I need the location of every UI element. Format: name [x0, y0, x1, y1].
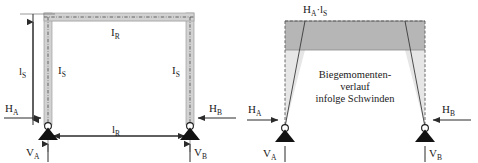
support-a-triangle	[38, 128, 58, 141]
column-height-label: lS	[19, 65, 26, 80]
support-b	[180, 123, 200, 140]
moment-band-beam	[285, 21, 425, 50]
moment-caption-line2: verlauf	[340, 81, 370, 92]
support-b-triangle	[180, 128, 200, 141]
reaction-ha-label: HA	[248, 103, 262, 118]
reaction-va-label: VA	[263, 147, 277, 162]
beam-member-label: IR	[111, 26, 120, 41]
support-a	[275, 125, 295, 142]
reaction-vb-label: VB	[194, 146, 207, 161]
reaction-vb-label: VB	[429, 147, 442, 162]
support-b	[415, 125, 435, 142]
moment-value-label: HA·lS	[303, 3, 327, 18]
reaction-hb-label: HB	[442, 103, 455, 118]
support-a	[38, 123, 58, 140]
reaction-ha-label: HA	[5, 102, 19, 117]
right-moment-diagram-panel: HA·lS Biegemomenten- verlauf infolge Sch…	[239, 0, 478, 163]
reaction-hb-label: HB	[209, 102, 222, 117]
moment-wedge-left	[285, 50, 305, 127]
left-portal-frame-panel: IS IS IR lS lR	[0, 0, 239, 163]
left-column-member-label: IS	[58, 64, 66, 79]
engineering-figure: IS IS IR lS lR	[0, 0, 478, 163]
moment-caption-line1: Biegemomenten-	[319, 69, 392, 80]
reaction-va-label: VA	[26, 146, 40, 161]
span-label: lR	[112, 123, 120, 138]
moment-wedge-right	[405, 50, 425, 127]
support-a-triangle	[275, 130, 295, 143]
support-b-triangle	[415, 130, 435, 143]
right-column-member-label: IS	[172, 64, 180, 79]
moment-caption-line3: infolge Schwinden	[315, 93, 395, 104]
